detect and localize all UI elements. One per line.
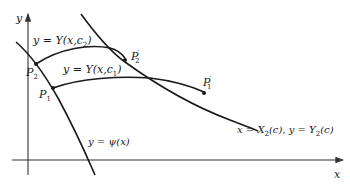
curve-family-c2 xyxy=(36,47,125,64)
label-p2: P2 xyxy=(25,66,38,81)
label-curve-psi: y = ψ(x) xyxy=(87,136,130,147)
label-p1-prime: P′1 xyxy=(202,75,211,91)
y-axis-label: y xyxy=(15,12,23,25)
diagram-figure: y x P2 P1 P′2 P′1 y = Y(x,c2) xyxy=(0,0,350,186)
label-p1: P1 xyxy=(38,88,51,103)
label-curve-c1: y = Y(x,c1) xyxy=(62,63,122,78)
x-axis-label: x xyxy=(334,168,341,181)
point-p2-prime xyxy=(123,58,127,62)
label-curve-c2: y = Y(x,c2) xyxy=(32,34,92,49)
label-curve-transversal: x = X2(c), y = Y2(c) xyxy=(237,124,334,138)
point-p1-prime xyxy=(202,91,206,95)
label-p2-prime: P′2 xyxy=(130,49,139,65)
diagram-canvas: y x P2 P1 P′2 P′1 y = Y(x,c2) xyxy=(0,0,350,186)
point-p1 xyxy=(51,86,55,90)
point-p2 xyxy=(34,62,38,66)
curve-family-c1 xyxy=(53,77,204,92)
